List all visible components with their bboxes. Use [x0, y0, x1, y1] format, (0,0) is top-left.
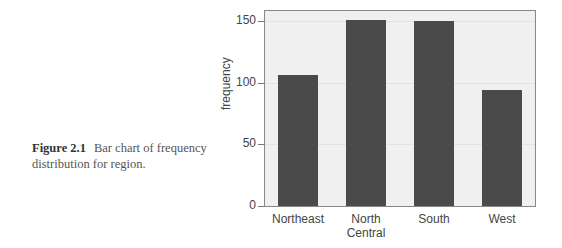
y-tick — [258, 83, 264, 84]
figure-label: Figure 2.1 — [32, 141, 86, 155]
x-tick-label: South — [399, 212, 469, 226]
y-tick-label: 100 — [226, 75, 256, 89]
y-tick — [258, 144, 264, 145]
x-tick-label: NorthCentral — [331, 212, 401, 240]
figure-caption: Figure 2.1Bar chart of frequency distrib… — [32, 140, 212, 172]
y-tick — [258, 21, 264, 22]
plot-area — [264, 10, 536, 207]
y-tick-label: 150 — [226, 13, 256, 27]
y-tick-label: 0 — [226, 198, 256, 212]
bar-northeast — [278, 75, 318, 206]
x-tick-label: Northeast — [263, 212, 333, 226]
bar-south — [414, 21, 454, 206]
gridline — [265, 21, 535, 22]
y-tick-label: 50 — [226, 136, 256, 150]
bar-north-central — [346, 20, 386, 206]
x-tick-label: West — [467, 212, 537, 226]
y-tick — [258, 206, 264, 207]
bar-west — [482, 90, 522, 206]
